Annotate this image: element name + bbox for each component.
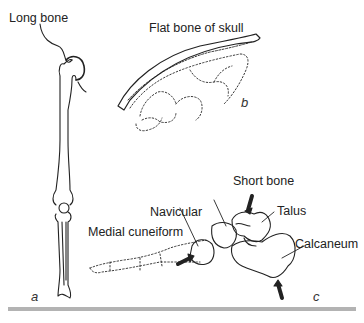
flat-bone-drawing [118,34,260,131]
bone-types-diagram [0,0,364,323]
label-talus: Talus [277,205,306,218]
label-calcaneum: Calcaneum [295,238,358,251]
panel-letter-b: b [241,96,248,109]
label-medial-cuneiform: Medial cuneiform [88,226,183,239]
label-long-bone: Long bone [9,12,68,25]
label-short-bone: Short bone [233,175,294,188]
long-bone-drawing [40,24,86,298]
label-navicular: Navicular [150,206,202,219]
label-flat-bone: Flat bone of skull [149,22,244,35]
panel-letter-a: a [31,290,38,303]
bottom-divider-bar [8,307,356,311]
panel-letter-c: c [313,290,320,303]
